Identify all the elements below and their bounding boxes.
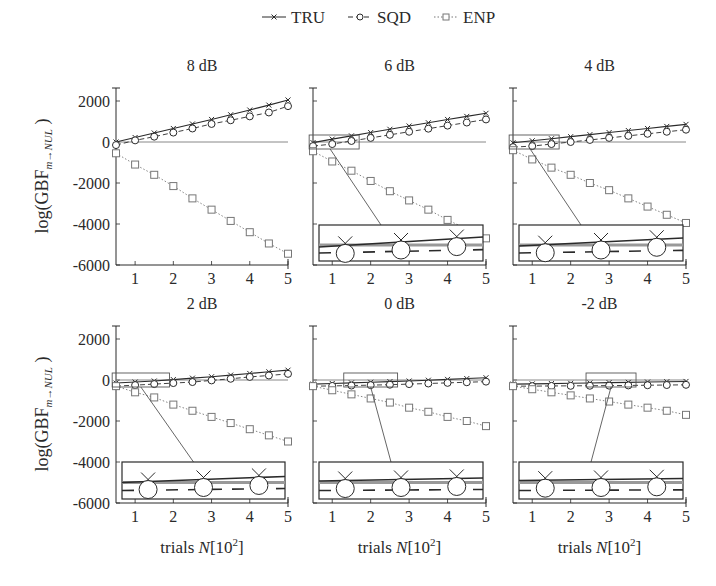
y-tick-label: 2000 bbox=[78, 331, 110, 348]
x-tick-label: 3 bbox=[405, 508, 413, 525]
circle-marker-icon bbox=[625, 132, 632, 139]
square-marker-icon bbox=[644, 203, 651, 210]
x-tick-label: 5 bbox=[284, 270, 292, 287]
x-tick-label: 5 bbox=[482, 508, 490, 525]
circle-marker-icon bbox=[132, 137, 139, 144]
square-marker-icon bbox=[310, 383, 317, 390]
circle-marker-icon bbox=[170, 129, 177, 136]
square-marker-icon bbox=[367, 177, 374, 184]
square-marker-icon bbox=[285, 250, 292, 257]
square-marker-icon bbox=[567, 392, 574, 399]
circle-marker-icon bbox=[132, 382, 139, 389]
legend-label: ENP bbox=[463, 8, 495, 27]
y-tick-label: -6000 bbox=[73, 495, 110, 512]
circle-marker-icon bbox=[336, 244, 354, 262]
circle-marker-icon bbox=[329, 141, 336, 148]
figure: TRUSQDENP 8 dB20000-2000-4000-6000123456… bbox=[0, 0, 716, 586]
y-axis-label: log(GBFm→NUL ) bbox=[32, 357, 54, 472]
circle-marker-icon bbox=[548, 141, 555, 148]
panel-title: -2 dB bbox=[582, 295, 618, 312]
circle-marker-icon bbox=[425, 125, 432, 132]
panel-title: 0 dB bbox=[384, 295, 415, 312]
square-marker-icon bbox=[265, 432, 272, 439]
inset-connector bbox=[141, 387, 194, 462]
square-marker-icon bbox=[510, 383, 517, 390]
circle-marker-icon bbox=[392, 479, 410, 497]
circle-marker-icon bbox=[586, 136, 593, 143]
circle-marker-icon bbox=[663, 382, 670, 389]
x-tick-label: 4 bbox=[444, 270, 452, 287]
circle-marker-icon bbox=[367, 134, 374, 141]
x-tick-label: 4 bbox=[246, 508, 254, 525]
square-marker-icon bbox=[132, 389, 139, 396]
square-marker-icon bbox=[132, 161, 139, 168]
x-tick-label: 3 bbox=[405, 270, 413, 287]
square-marker-icon bbox=[113, 150, 120, 157]
panel-title: 2 dB bbox=[187, 295, 218, 312]
circle-marker-icon bbox=[683, 381, 690, 388]
series-enp bbox=[113, 383, 292, 445]
circle-marker-icon bbox=[250, 476, 268, 494]
panel-8db: 8 dB20000-2000-4000-600012345 bbox=[73, 57, 292, 287]
square-marker-icon bbox=[170, 401, 177, 408]
legend-entry-tru: TRU bbox=[262, 8, 325, 27]
series-sqd bbox=[310, 116, 490, 150]
legend-entry-enp: ENP bbox=[434, 8, 495, 27]
panel-4db: 4 dB12345 bbox=[509, 57, 690, 287]
circle-marker-icon bbox=[648, 238, 666, 256]
y-tick-label: 0 bbox=[102, 372, 110, 389]
circle-marker-icon bbox=[336, 480, 354, 498]
square-marker-icon bbox=[463, 418, 470, 425]
circle-marker-icon bbox=[463, 119, 470, 126]
square-marker-icon bbox=[510, 147, 517, 154]
square-marker-icon bbox=[425, 408, 432, 415]
circle-marker-icon bbox=[392, 241, 410, 259]
x-tick-label: 1 bbox=[528, 270, 536, 287]
x-tick-label: 2 bbox=[567, 270, 575, 287]
square-marker-icon bbox=[227, 420, 234, 427]
square-marker-icon bbox=[606, 187, 613, 194]
inset-zoom bbox=[519, 462, 683, 499]
x-tick-label: 3 bbox=[605, 270, 613, 287]
circle-marker-icon bbox=[592, 479, 610, 497]
panel-0db: 0 dB12345 bbox=[309, 295, 490, 525]
x-tick-label: 1 bbox=[131, 270, 139, 287]
circle-marker-icon bbox=[246, 113, 253, 120]
circle-marker-icon bbox=[444, 122, 451, 129]
square-marker-icon bbox=[246, 229, 253, 236]
circle-marker-icon bbox=[170, 380, 177, 387]
circle-marker-icon bbox=[386, 131, 393, 138]
circle-marker-icon bbox=[246, 373, 253, 380]
inset-zoom bbox=[122, 462, 285, 499]
inset-zoom bbox=[519, 225, 683, 262]
circle-marker-icon bbox=[227, 375, 234, 382]
square-marker-icon bbox=[586, 180, 593, 187]
x-tick-label: 1 bbox=[528, 508, 536, 525]
circle-marker-icon bbox=[189, 379, 196, 386]
x-tick-label: 5 bbox=[682, 508, 690, 525]
series-tru bbox=[311, 375, 489, 386]
square-marker-icon bbox=[189, 195, 196, 202]
circle-marker-icon bbox=[606, 134, 613, 141]
inset-zoom bbox=[319, 462, 483, 499]
panel--2db: -2 dB12345 bbox=[509, 295, 690, 525]
x-tick-label: 4 bbox=[644, 508, 652, 525]
circle-marker-icon bbox=[536, 479, 554, 497]
circle-marker-icon bbox=[586, 382, 593, 389]
circle-marker-icon bbox=[208, 377, 215, 384]
series-tru bbox=[114, 97, 291, 144]
inset-connector bbox=[591, 387, 611, 462]
circle-marker-icon bbox=[227, 117, 234, 124]
y-tick-label: -2000 bbox=[73, 413, 110, 430]
square-marker-icon bbox=[529, 156, 536, 163]
square-marker-icon bbox=[567, 171, 574, 178]
square-marker-icon bbox=[329, 158, 336, 165]
square-marker-icon bbox=[663, 407, 670, 414]
square-marker-icon bbox=[548, 164, 555, 171]
y-tick-label: -2000 bbox=[73, 175, 110, 192]
legend-label: SQD bbox=[377, 8, 411, 27]
square-marker-icon bbox=[444, 216, 451, 223]
y-tick-label: 2000 bbox=[78, 93, 110, 110]
square-marker-icon bbox=[443, 14, 449, 20]
circle-marker-icon bbox=[285, 370, 292, 377]
